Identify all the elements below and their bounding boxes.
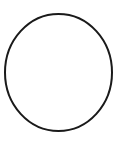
figure-canvas-root: Circle — [0, 0, 122, 147]
circle-outline-svg — [0, 0, 122, 147]
drawing-canvas — [0, 0, 122, 147]
canvas-background — [0, 0, 122, 147]
